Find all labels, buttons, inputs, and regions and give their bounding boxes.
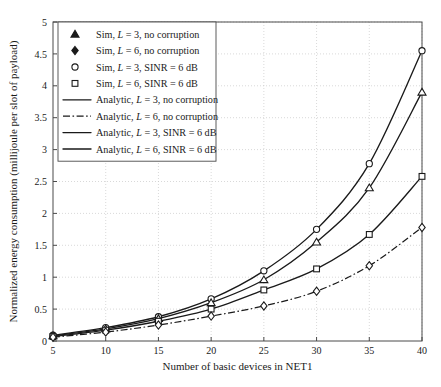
series-line-diamond xyxy=(53,227,422,337)
chart-figure: 00.511.522.533.544.55510152025303540 Sim… xyxy=(0,0,441,387)
x-tick-label: 10 xyxy=(101,345,111,356)
chart-canvas: 00.511.522.533.544.55510152025303540 Sim… xyxy=(0,0,441,387)
x-tick-label: 25 xyxy=(259,345,269,356)
y-tick-label: 4 xyxy=(42,80,47,91)
x-tick-label: 15 xyxy=(153,345,163,356)
data-point-square xyxy=(366,232,372,238)
data-point-diamond xyxy=(366,262,372,270)
x-tick-label: 30 xyxy=(312,345,322,356)
legend-label-analytic-l6-sinr6: Analytic, L = 6, SINR = 6 dB xyxy=(96,144,217,155)
data-point-circle xyxy=(419,48,425,54)
y-tick-label: 3 xyxy=(42,144,47,155)
y-tick-label: 3.5 xyxy=(35,112,48,123)
data-point-square xyxy=(314,266,320,272)
legend-box xyxy=(58,22,216,161)
data-point-diamond xyxy=(313,287,319,295)
y-tick-label: 2.5 xyxy=(35,176,48,187)
x-tick-label: 20 xyxy=(206,345,216,356)
y-tick-label: 0 xyxy=(42,336,47,347)
y-tick-label: 0.5 xyxy=(35,304,48,315)
data-point-triangle xyxy=(418,88,426,95)
legend-label-sim-l3-no-corruption: Sim, L = 3, no corruption xyxy=(96,29,199,40)
data-point-diamond xyxy=(208,312,214,320)
y-tick-label: 1.5 xyxy=(35,240,48,251)
legend-label-sim-l6-sinr6: Sim, L = 6, SINR = 6 dB xyxy=(96,78,198,89)
x-tick-label: 40 xyxy=(417,345,427,356)
y-tick-label: 4.5 xyxy=(35,49,48,60)
y-tick-label: 1 xyxy=(42,272,47,283)
legend-label-analytic-l6-no-corruption: Analytic, L = 6, no corruption xyxy=(96,111,218,122)
y-axis-title: Normalized energy consumption (millijoul… xyxy=(7,40,20,322)
data-point-circle xyxy=(366,161,372,167)
chart-legend: Sim, L = 3, no corruptionSim, L = 6, no … xyxy=(58,22,218,161)
legend-label-analytic-l3-no-corruption: Analytic, L = 3, no corruption xyxy=(96,94,218,105)
x-axis-title: Number of basic devices in NET1 xyxy=(163,360,313,372)
x-tick-label: 35 xyxy=(364,345,374,356)
data-point-circle xyxy=(261,268,267,274)
data-point-diamond xyxy=(419,223,425,231)
legend-label-analytic-l3-sinr6: Analytic, L = 3, SINR = 6 dB xyxy=(96,127,217,138)
legend-square-icon xyxy=(72,81,78,87)
series-line-square xyxy=(53,176,422,336)
legend-label-sim-l3-sinr6: Sim, L = 3, SINR = 6 dB xyxy=(96,62,198,73)
legend-label-sim-l6-no-corruption: Sim, L = 6, no corruption xyxy=(96,45,199,56)
x-tick-label: 5 xyxy=(51,345,56,356)
data-point-square xyxy=(261,287,267,293)
data-point-circle xyxy=(313,226,319,232)
y-tick-label: 5 xyxy=(42,17,47,28)
legend-circle-icon xyxy=(72,64,78,70)
data-point-triangle xyxy=(365,184,373,191)
data-point-square xyxy=(419,173,425,179)
y-tick-label: 2 xyxy=(42,208,47,219)
